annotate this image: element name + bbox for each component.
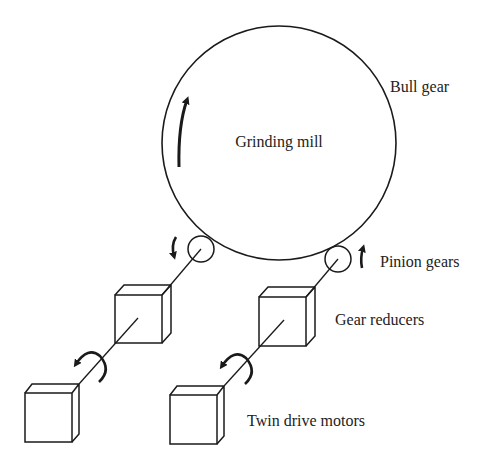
mill-rotation-arrow-icon [179, 100, 187, 167]
pinion-right-rotation-arrow-icon [361, 248, 363, 268]
drive-motor-right [170, 386, 224, 444]
gear-reducer-right [259, 287, 315, 346]
drive-diagram: Grinding mill Bull gear Pinion gears Gea… [0, 0, 500, 467]
pinion-left-rotation-arrow-icon [173, 237, 176, 256]
shaft-right-lower [224, 320, 284, 386]
label-gear-reducers: Gear reducers [335, 311, 424, 328]
drive-motor-left [25, 384, 79, 442]
label-twin-drive-motors: Twin drive motors [247, 412, 365, 429]
shaft-left-lower [79, 318, 138, 384]
motor-left-rotation-arrow-icon [76, 352, 106, 382]
motor-right-rotation-arrow-icon [222, 354, 252, 384]
label-bull-gear: Bull gear [390, 78, 450, 96]
label-pinion-gears: Pinion gears [380, 253, 460, 271]
label-grinding-mill: Grinding mill [235, 133, 323, 151]
diagram-canvas: Grinding mill Bull gear Pinion gears Gea… [0, 0, 500, 467]
